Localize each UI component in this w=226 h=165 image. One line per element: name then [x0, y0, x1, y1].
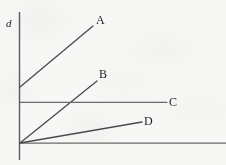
- curve-label-c: C: [169, 96, 177, 108]
- curve-label-b: B: [99, 68, 107, 80]
- curve-line-b: [20, 81, 97, 143]
- curve-label-d: D: [144, 115, 153, 127]
- curve-label-a: A: [96, 14, 105, 26]
- y-axis-label: d: [6, 18, 12, 29]
- plot-canvas: [0, 0, 226, 165]
- graph-figure: d A B C D: [0, 0, 226, 165]
- curve-line-d: [20, 122, 142, 143]
- curve-line-a: [20, 26, 93, 87]
